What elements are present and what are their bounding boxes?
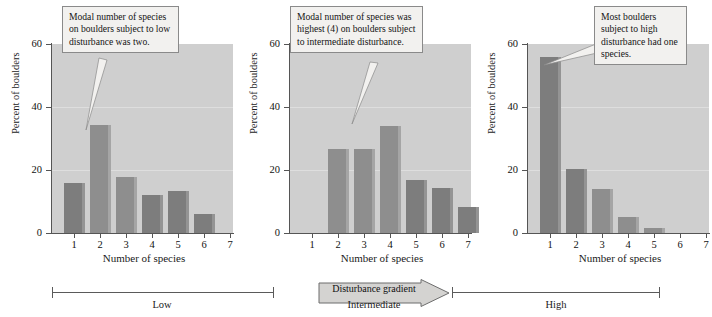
bar-side	[134, 177, 137, 233]
x-axis-label-low: Number of species	[46, 253, 242, 264]
x-tick-2	[576, 233, 577, 238]
y-tick-40	[284, 107, 289, 108]
bar-side	[398, 126, 401, 233]
bar-face	[116, 177, 134, 233]
y-tick-label-20: 20	[492, 165, 518, 176]
y-tick-20	[284, 170, 289, 171]
x-tick-3	[602, 233, 603, 238]
bar-side	[558, 57, 561, 233]
x-tick-7	[230, 233, 231, 238]
x-tick-5	[416, 233, 417, 238]
bar-side	[212, 214, 215, 233]
x-tick-5	[178, 233, 179, 238]
x-tick-label-2: 2	[93, 240, 107, 251]
disturbance-gradient-strip: Low Disturbance gradient Intermediate Hi…	[0, 274, 712, 317]
gradient-cap-right	[659, 287, 660, 298]
bar-face	[540, 57, 558, 233]
x-tick-3	[126, 233, 127, 238]
bar-low-6	[194, 214, 215, 233]
x-tick-label-6: 6	[435, 240, 449, 251]
x-tick-label-4: 4	[383, 240, 397, 251]
bar-face	[380, 126, 398, 233]
bar-face	[592, 189, 610, 233]
x-tick-2	[100, 233, 101, 238]
bar-face	[354, 149, 372, 233]
x-tick-1	[550, 233, 551, 238]
bar-intermediate-6	[432, 188, 453, 233]
callout-low: Modal number of species on boulders subj…	[62, 6, 179, 53]
bar-side	[450, 188, 453, 233]
bar-side	[346, 149, 349, 233]
bar-face	[618, 217, 636, 233]
bar-low-2	[90, 125, 111, 233]
x-tick-7	[706, 233, 707, 238]
gradient-line-high	[452, 292, 659, 293]
bar-intermediate-5	[406, 180, 427, 233]
x-tick-1	[74, 233, 75, 238]
y-tick-label-0: 0	[16, 228, 42, 239]
y-tick-20	[46, 170, 51, 171]
callout-high: Most boulders subject to high disturbanc…	[594, 6, 687, 65]
bar-high-2	[566, 169, 587, 233]
bar-side	[610, 189, 613, 233]
y-tick-60	[284, 44, 289, 45]
x-tick-6	[442, 233, 443, 238]
callout-intermediate: Modal number of species was highest (4) …	[290, 6, 423, 53]
bar-low-4	[142, 195, 163, 233]
bar-face	[458, 207, 476, 234]
chart-panel-high: 60 40 20 0 Percent of boulders 1 2 3 4 5…	[476, 0, 712, 272]
bar-face	[432, 188, 450, 233]
x-tick-1	[312, 233, 313, 238]
y-axis-intermediate	[289, 43, 290, 234]
x-tick-label-3: 3	[595, 240, 609, 251]
x-tick-label-4: 4	[145, 240, 159, 251]
bar-side	[424, 180, 427, 233]
bar-face	[64, 183, 82, 233]
bar-face	[142, 195, 160, 233]
gridline-20	[52, 170, 233, 171]
bar-low-1	[64, 183, 85, 233]
bar-side	[160, 195, 163, 233]
x-tick-label-1: 1	[305, 240, 319, 251]
y-tick-40	[522, 107, 527, 108]
callout-leader-intermediate	[346, 62, 406, 126]
y-axis-low	[51, 43, 52, 234]
bar-face	[328, 149, 346, 233]
x-axis-label-intermediate: Number of species	[284, 253, 480, 264]
bar-side	[186, 191, 189, 233]
x-axis-low	[51, 233, 234, 234]
x-tick-7	[468, 233, 469, 238]
x-tick-label-5: 5	[171, 240, 185, 251]
gradient-label-low: Low	[92, 300, 232, 311]
gradient-arrow-label: Disturbance gradient	[326, 284, 422, 294]
callout-leader-high	[542, 44, 598, 68]
bar-face	[194, 214, 212, 233]
y-tick-60	[522, 44, 527, 45]
gradient-label-intermediate: Intermediate	[318, 300, 430, 311]
x-tick-label-7: 7	[223, 240, 237, 251]
gradient-label-high: High	[486, 300, 626, 311]
bar-side	[584, 169, 587, 233]
x-tick-label-5: 5	[647, 240, 661, 251]
x-tick-3	[364, 233, 365, 238]
bar-high-1	[540, 57, 561, 233]
bar-high-3	[592, 189, 613, 233]
bar-side	[108, 125, 111, 233]
bar-side	[372, 149, 375, 233]
y-tick-40	[46, 107, 51, 108]
y-tick-0	[284, 233, 289, 234]
y-tick-0	[46, 233, 51, 234]
x-tick-label-7: 7	[461, 240, 475, 251]
bar-side	[636, 217, 639, 233]
callout-leader-low	[60, 58, 130, 132]
x-tick-2	[338, 233, 339, 238]
bar-face	[90, 125, 108, 233]
bar-face	[168, 191, 186, 233]
x-tick-4	[390, 233, 391, 238]
bar-low-3	[116, 177, 137, 233]
y-tick-label-20: 20	[16, 165, 42, 176]
y-tick-60	[46, 44, 51, 45]
chart-panel-low: 60 40 20 0 Percent of boulders 1 2 3 4 5…	[0, 0, 240, 272]
x-axis-intermediate	[289, 233, 472, 234]
x-tick-5	[654, 233, 655, 238]
